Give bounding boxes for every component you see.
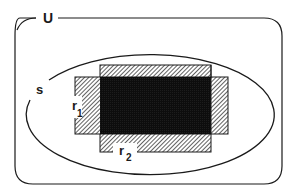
intersection-region	[100, 77, 211, 134]
rect-r2-label-bg	[113, 143, 137, 155]
universe-label: U	[43, 10, 53, 26]
rect-r2-label: r	[119, 143, 124, 158]
set-s-label: s	[36, 82, 43, 97]
rect-r2-subscript: 2	[126, 152, 132, 163]
rect-r1-subscript: 1	[77, 108, 83, 119]
venn-diagram: U r 1 r 2 s	[0, 0, 298, 194]
universe-frame-corner	[17, 18, 36, 30]
